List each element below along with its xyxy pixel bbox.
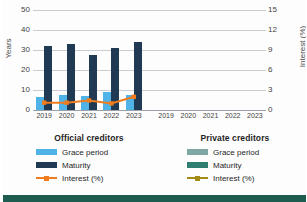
grace-period-swatch-icon: [36, 149, 57, 155]
interest-line-official: [33, 0, 145, 110]
y-tick-right-15: 15: [268, 5, 286, 14]
interest-marker: [64, 100, 68, 104]
x-tick-label: 2022: [222, 112, 244, 119]
legend-official: Official creditors Grace period Maturity…: [14, 133, 164, 195]
legend-label: Maturity: [62, 161, 90, 170]
x-tick-label: 2023: [244, 112, 266, 119]
legend-title-private: Private creditors: [165, 133, 305, 143]
legend-private: Private creditors Grace period Maturity …: [165, 133, 305, 195]
legend-label: Grace period: [213, 148, 259, 157]
y-tick-left-0: 0: [12, 105, 30, 114]
interest-line-swatch-icon: [187, 174, 208, 182]
x-tick-label: 2020: [56, 112, 78, 119]
interest-line-swatch-icon: [36, 174, 57, 182]
legend-item-private-maturity[interactable]: Maturity: [187, 159, 305, 171]
x-tick-label: 2020: [177, 112, 199, 119]
y-tick-right-9: 9: [268, 45, 286, 54]
interest-marker: [109, 101, 113, 105]
maturity-swatch-icon: [187, 162, 208, 168]
legend-label: Maturity: [213, 161, 241, 170]
legend-title-official: Official creditors: [14, 133, 164, 143]
interest-marker: [87, 98, 91, 102]
y-tick-left-10: 10: [12, 85, 30, 94]
x-tick-label: 2019: [33, 112, 55, 119]
y-tick-left-20: 20: [12, 65, 30, 74]
x-tick-label: 2022: [100, 112, 122, 119]
interest-marker: [42, 100, 46, 104]
legend-item-official-grace[interactable]: Grace period: [36, 146, 164, 158]
legend-item-official-interest[interactable]: Interest (%): [36, 172, 164, 184]
chart-root: Years 50 40 30 20 10 0 Interest (%) 15 1…: [0, 0, 306, 202]
y-axis-label-right: Interest (%): [298, 20, 307, 74]
footer-accent-bar: [0, 195, 306, 202]
y-tick-left-30: 30: [12, 45, 30, 54]
y-tick-left-50: 50: [12, 5, 30, 14]
legend-item-private-grace[interactable]: Grace period: [187, 146, 305, 158]
y-tick-right-6: 6: [268, 65, 286, 74]
panel-official-creditors: 20192020202120222023: [33, 0, 145, 132]
left-edge-margin: [0, 0, 3, 202]
interest-line-private: [155, 0, 266, 110]
x-tick-label: 2021: [200, 112, 222, 119]
legend-item-official-maturity[interactable]: Maturity: [36, 159, 164, 171]
legend-label: Grace period: [62, 148, 108, 157]
x-tick-label: 2021: [78, 112, 100, 119]
grace-period-swatch-icon: [187, 149, 208, 155]
y-tick-left-40: 40: [12, 25, 30, 34]
legend-label: Interest (%): [62, 174, 103, 183]
legend-item-private-interest[interactable]: Interest (%): [187, 172, 305, 184]
maturity-swatch-icon: [36, 162, 57, 168]
x-axis-official: 20192020202120222023: [33, 112, 145, 124]
y-tick-right-3: 3: [268, 85, 286, 94]
x-axis-private: 20192020202120222023: [155, 112, 266, 124]
x-tick-label: 2019: [155, 112, 177, 119]
x-tick-label: 2023: [123, 112, 145, 119]
y-tick-right-0: 0: [268, 105, 286, 114]
legend-label: Interest (%): [213, 174, 254, 183]
plot-area: Years 50 40 30 20 10 0 Interest (%) 15 1…: [0, 0, 306, 132]
y-tick-right-12: 12: [268, 25, 286, 34]
panel-private-creditors: 20192020202120222023: [155, 0, 266, 132]
interest-marker: [132, 95, 136, 99]
